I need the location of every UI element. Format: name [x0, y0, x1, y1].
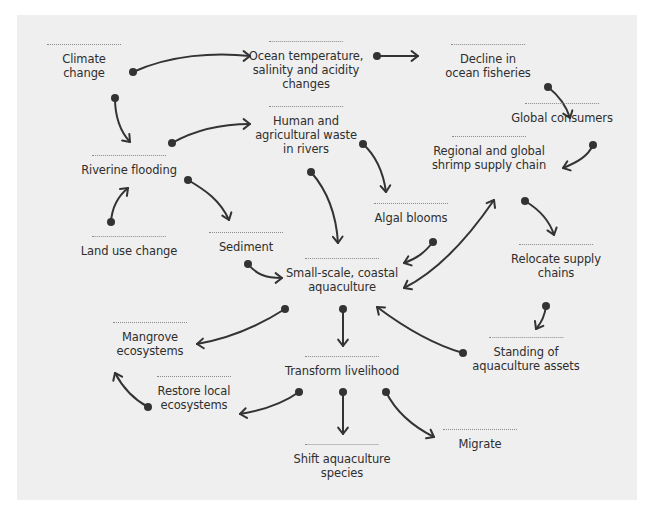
node-label: aquaculture assets	[472, 359, 579, 373]
dotted-rule	[92, 155, 166, 156]
node-label: Riverine flooding	[81, 163, 177, 177]
node-label: Standing of	[472, 345, 579, 359]
node-label: Shift aquaculture	[294, 452, 391, 466]
node-label: Relocate supply	[511, 252, 601, 266]
node-label: Ocean temperature,	[249, 49, 364, 63]
node-land-use: Land use change	[81, 236, 178, 258]
node-label: ecosystems	[113, 344, 187, 358]
node-label: aquaculture	[286, 280, 398, 294]
node-label: shrimp supply chain	[432, 158, 546, 172]
node-label: Global consumers	[511, 111, 613, 125]
dotted-rule	[209, 232, 283, 233]
dotted-rule	[519, 244, 593, 245]
dotted-rule	[452, 136, 526, 137]
node-label: Climate	[47, 52, 121, 66]
node-label: Migrate	[443, 437, 517, 451]
dotted-rule	[269, 41, 343, 42]
node-label: change	[47, 66, 121, 80]
node-label: Sediment	[209, 240, 283, 254]
dotted-rule	[443, 429, 517, 430]
node-sediment: Sediment	[209, 232, 283, 254]
node-human-waste: Human andagricultural wastein rivers	[255, 106, 357, 156]
node-standing: Standing ofaquaculture assets	[472, 337, 579, 373]
node-label: in rivers	[255, 142, 357, 156]
node-label: species	[294, 466, 391, 480]
dotted-rule	[374, 203, 448, 204]
node-label: Mangrove	[113, 330, 187, 344]
node-shift: Shift aquaculturespecies	[294, 444, 391, 480]
node-aquaculture: Small-scale, coastalaquaculture	[286, 258, 398, 294]
node-label: ecosystems	[157, 398, 231, 412]
dotted-rule	[305, 444, 379, 445]
node-fisheries: Decline inocean fisheries	[445, 44, 531, 80]
dotted-rule	[305, 258, 379, 259]
node-mangrove: Mangroveecosystems	[113, 322, 187, 358]
node-label: Human and	[255, 114, 357, 128]
dotted-rule	[47, 44, 121, 45]
node-label: Transform livelihood	[285, 364, 399, 378]
node-label: Decline in	[445, 52, 531, 66]
dotted-rule	[269, 106, 343, 107]
dotted-rule	[113, 322, 187, 323]
node-label: Restore local	[157, 384, 231, 398]
dotted-rule	[157, 376, 231, 377]
node-label: ocean fisheries	[445, 66, 531, 80]
node-transform: Transform livelihood	[285, 356, 399, 378]
node-algal: Algal blooms	[374, 203, 448, 225]
node-label: Regional and global	[432, 144, 546, 158]
node-label: agricultural waste	[255, 128, 357, 142]
node-label: chains	[511, 266, 601, 280]
node-relocate: Relocate supplychains	[511, 244, 601, 280]
node-global-consumers: Global consumers	[511, 103, 613, 125]
node-riverine: Riverine flooding	[81, 155, 177, 177]
node-label: Small-scale, coastal	[286, 266, 398, 280]
node-label: salinity and acidity	[249, 63, 364, 77]
node-migrate: Migrate	[443, 429, 517, 451]
node-supply-chain: Regional and globalshrimp supply chain	[432, 136, 546, 172]
node-label: Algal blooms	[374, 211, 448, 225]
node-ocean: Ocean temperature,salinity and aciditych…	[249, 41, 364, 91]
dotted-rule	[525, 103, 599, 104]
dotted-rule	[92, 236, 166, 237]
node-label: Land use change	[81, 244, 178, 258]
node-climate: Climatechange	[47, 44, 121, 80]
node-restore: Restore localecosystems	[157, 376, 231, 412]
dotted-rule	[451, 44, 525, 45]
dotted-rule	[489, 337, 563, 338]
node-label: changes	[249, 77, 364, 91]
dotted-rule	[305, 356, 379, 357]
